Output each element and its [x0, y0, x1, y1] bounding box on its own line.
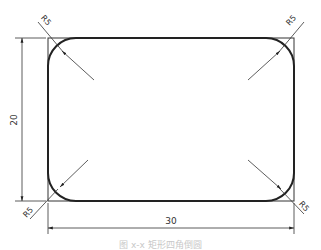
drawing: 20 30 R5 R5 R5 R5	[0, 0, 321, 250]
rounded-rectangle	[48, 38, 294, 201]
radius-label-br: R5	[297, 199, 311, 213]
radius-label-bl: R5	[21, 205, 35, 219]
height-label: 20	[9, 114, 19, 126]
sharp-rectangle	[48, 38, 294, 201]
figure-caption: 图 x-x 矩形四角倒圆	[0, 240, 321, 250]
radius-label-tr: R5	[284, 13, 298, 27]
width-label: 30	[165, 216, 177, 226]
